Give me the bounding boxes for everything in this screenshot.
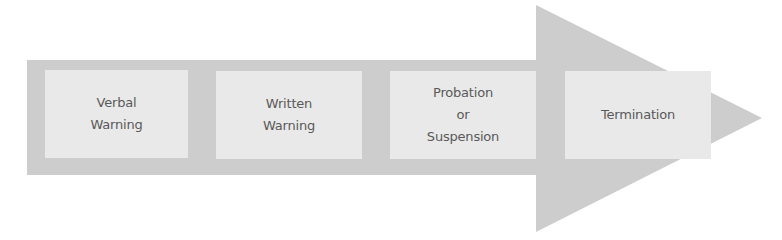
disciplinary-process-diagram: Verbal Warning Written Warning Probation…	[0, 0, 782, 240]
step-termination: Termination	[565, 71, 711, 159]
step-label: Probation or Suspension	[427, 82, 499, 148]
step-label: Verbal Warning	[90, 92, 142, 136]
step-probation-or-suspension: Probation or Suspension	[390, 71, 536, 159]
step-label: Termination	[601, 104, 675, 126]
step-written-warning: Written Warning	[216, 71, 362, 159]
step-label: Written Warning	[263, 93, 315, 137]
step-verbal-warning: Verbal Warning	[45, 70, 188, 158]
